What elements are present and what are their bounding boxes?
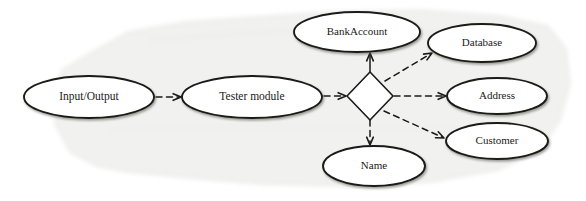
node-database[interactable]: Database: [428, 24, 536, 62]
node-label-address: Address: [479, 89, 515, 101]
node-bankaccount[interactable]: BankAccount: [294, 12, 420, 52]
node-label-database: Database: [462, 36, 502, 48]
diagram-svg: Input/OutputTester moduleBankAccountData…: [0, 0, 586, 201]
node-input-output[interactable]: Input/Output: [24, 76, 154, 118]
node-name[interactable]: Name: [323, 146, 425, 186]
node-label-name: Name: [361, 159, 387, 171]
node-address[interactable]: Address: [447, 78, 547, 114]
node-customer[interactable]: Customer: [446, 123, 548, 159]
node-label-input-output: Input/Output: [59, 90, 119, 103]
diagram-canvas: Input/OutputTester moduleBankAccountData…: [0, 0, 586, 201]
node-tester-module[interactable]: Tester module: [182, 76, 322, 118]
node-label-customer: Customer: [476, 134, 519, 146]
node-label-bankaccount: BankAccount: [327, 25, 387, 37]
node-label-tester-module: Tester module: [219, 90, 284, 102]
